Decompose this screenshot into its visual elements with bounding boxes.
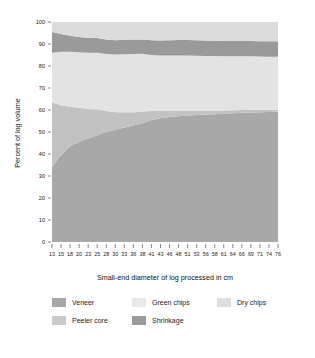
x-tick-label: 18 [67, 251, 73, 257]
legend-label-peeler-core: Peeler core [72, 317, 108, 324]
x-tick-label: 43 [157, 251, 163, 257]
x-tick-label: 23 [85, 251, 91, 257]
plot-series-group [52, 22, 278, 242]
x-tick-label: 38 [139, 251, 145, 257]
legend-item-dry-chips: Dry chips [217, 298, 266, 307]
x-tick-label: 13 [49, 251, 55, 257]
x-tick-label: 56 [203, 251, 209, 257]
legend-label-dry-chips: Dry chips [237, 299, 266, 306]
legend-item-veneer: Veneer [52, 298, 132, 307]
x-tick-label: 25 [94, 251, 100, 257]
x-tick-label: 48 [176, 251, 182, 257]
y-axis: 0102030405060708090100 [36, 19, 51, 245]
legend-label-veneer: Veneer [72, 299, 94, 306]
legend-swatch-dry-chips [217, 298, 231, 307]
x-tick-label: 30 [112, 251, 118, 257]
x-tick-label: 20 [76, 251, 82, 257]
y-tick-label: 10 [39, 217, 45, 223]
x-tick-label: 53 [194, 251, 200, 257]
x-tick-label: 76 [275, 251, 281, 257]
legend-item-shrinkage: Shrinkage [132, 316, 217, 325]
y-tick-label: 30 [39, 173, 45, 179]
y-tick-label: 60 [39, 107, 45, 113]
x-tick-label: 71 [257, 251, 263, 257]
y-tick-label: 0 [42, 239, 45, 245]
chart-figure: 0102030405060708090100 13151820232528303… [0, 0, 315, 358]
x-tick-label: 36 [130, 251, 136, 257]
x-axis: 1315182023252830333638414346485153565861… [49, 244, 281, 257]
legend-item-peeler-core: Peeler core [52, 316, 132, 325]
legend-label-shrinkage: Shrinkage [152, 317, 184, 324]
x-tick-label: 15 [58, 251, 64, 257]
y-tick-label: 100 [36, 19, 45, 25]
legend-swatch-green-chips [132, 298, 146, 307]
x-axis-title: Small-end diameter of log processed in c… [97, 273, 233, 282]
y-tick-label: 50 [39, 129, 45, 135]
legend-swatch-peeler-core [52, 316, 66, 325]
area-band-green-chips [52, 52, 278, 112]
x-tick-label: 66 [239, 251, 245, 257]
x-tick-label: 61 [221, 251, 227, 257]
x-tick-label: 69 [248, 251, 254, 257]
y-axis-title: Percent of log volume [13, 98, 22, 168]
x-tick-label: 74 [266, 251, 272, 257]
legend-swatch-veneer [52, 298, 66, 307]
x-tick-label: 64 [230, 251, 236, 257]
y-tick-label: 40 [39, 151, 45, 157]
legend-item-green-chips: Green chips [132, 298, 217, 307]
x-tick-label: 41 [148, 251, 154, 257]
x-tick-label: 28 [103, 251, 109, 257]
legend-swatch-shrinkage [132, 316, 146, 325]
x-tick-label: 33 [121, 251, 127, 257]
legend-label-green-chips: Green chips [152, 299, 190, 306]
chart-legend: Veneer Green chips Dry chips Peeler core… [52, 298, 297, 325]
y-tick-label: 90 [39, 41, 45, 47]
x-tick-label: 46 [167, 251, 173, 257]
x-tick-label: 51 [185, 251, 191, 257]
x-tick-label: 58 [212, 251, 218, 257]
y-tick-label: 70 [39, 85, 45, 91]
y-tick-label: 20 [39, 195, 45, 201]
y-tick-label: 80 [39, 63, 45, 69]
